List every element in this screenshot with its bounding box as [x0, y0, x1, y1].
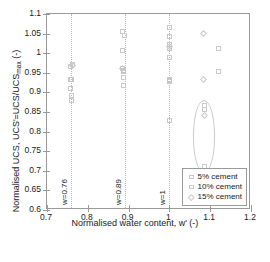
y-tick-label: 0.65: [1, 185, 41, 194]
data-point-marker: [167, 78, 172, 83]
reference-line-label-w076: w=0.76: [60, 179, 69, 205]
y-tick-label: 1.1: [1, 9, 41, 18]
data-point-marker: [167, 55, 172, 60]
data-point-marker: [120, 48, 125, 53]
legend-item-5pct: 5% cement: [186, 172, 242, 182]
x-tick-inner: [129, 205, 130, 208]
x-tick-inner: [169, 205, 170, 208]
reference-line-w076: [71, 14, 72, 208]
x-tick-inner: [47, 205, 48, 208]
y-tick-inner: [47, 190, 50, 191]
data-point-marker: [216, 69, 221, 74]
y-tick-label: 0.85: [1, 107, 41, 116]
legend-item-15pct: 15% cement: [186, 192, 242, 202]
y-tick-label: 1.05: [1, 29, 41, 38]
data-point-marker: [121, 75, 126, 80]
data-point-marker: [167, 34, 172, 39]
y-tick-inner: [47, 92, 50, 93]
reference-line-w089: [125, 14, 126, 208]
y-tick-inner: [47, 34, 50, 35]
x-tick-label: 0.7: [26, 213, 66, 222]
y-tick-inner: [47, 171, 50, 172]
x-tick-label: 1: [148, 213, 188, 222]
chart-figure: Normalised UCS, UCS'=UCS/UCSmax (-) Norm…: [0, 0, 270, 262]
y-tick-label: 0.8: [1, 127, 41, 136]
legend-marker-square-icon: [186, 175, 198, 180]
data-point-marker: [200, 76, 207, 83]
y-tick-inner: [47, 53, 50, 54]
y-tick-label: 0.9: [1, 87, 41, 96]
legend-label-5pct: 5% cement: [198, 173, 238, 181]
x-tick-label: 0.9: [108, 213, 148, 222]
y-tick-inner: [47, 14, 50, 15]
y-tick-inner: [47, 151, 50, 152]
legend-label-15pct: 15% cement: [198, 193, 242, 201]
y-tick-inner: [47, 73, 50, 74]
data-point-marker: [167, 25, 172, 30]
data-point-marker: [122, 33, 127, 38]
x-tick-label: 0.8: [67, 213, 107, 222]
y-tick-label: 0.7: [1, 166, 41, 175]
data-point-marker: [216, 46, 221, 51]
x-tick-label: 1.2: [230, 213, 270, 222]
legend[interactable]: 5% cement 10% cement 15% cement: [182, 168, 247, 206]
legend-marker-square-icon: [186, 185, 198, 190]
y-tick-inner: [47, 132, 50, 133]
plot-area: w=0.76 w=0.89 w=1 5% cement 10% cement 1…: [46, 13, 250, 209]
data-point-marker: [200, 30, 207, 37]
legend-marker-diamond-icon: [186, 195, 198, 200]
x-tick-inner: [88, 205, 89, 208]
data-point-marker: [167, 118, 172, 123]
y-tick-inner: [47, 112, 50, 113]
y-tick-label: 0.75: [1, 146, 41, 155]
data-point-marker: [69, 77, 74, 82]
legend-label-10pct: 10% cement: [198, 183, 242, 191]
reference-line-label-w1: w=1: [158, 190, 167, 205]
data-point-marker: [69, 98, 74, 103]
x-tick-inner: [251, 205, 252, 208]
y-tick-label: 0.95: [1, 68, 41, 77]
data-point-marker: [68, 86, 73, 91]
x-tick-label: 1.1: [189, 213, 229, 222]
data-point-marker: [121, 83, 126, 88]
y-tick-label: 1: [1, 48, 41, 57]
reference-line-label-w089: w=0.89: [114, 179, 123, 205]
legend-item-10pct: 10% cement: [186, 182, 242, 192]
